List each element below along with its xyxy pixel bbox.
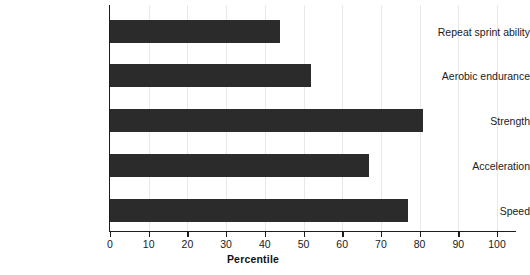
x-axis-tick-label: 70 — [375, 238, 387, 250]
x-axis-tick-label: 100 — [488, 238, 506, 250]
x-axis-title-text: Percentile — [227, 253, 279, 265]
x-axis-tick-label: 80 — [414, 238, 426, 250]
category-label-speed: Speed — [426, 205, 530, 217]
bar-speed — [110, 199, 408, 222]
y-axis-line — [109, 5, 110, 232]
x-axis-tick-label: 60 — [336, 238, 348, 250]
category-label-strength: Strength — [426, 115, 530, 127]
x-axis-tick — [458, 232, 459, 237]
x-axis-tick — [187, 232, 188, 237]
x-axis-tick — [304, 232, 305, 237]
x-axis-tick-label: 40 — [259, 238, 271, 250]
x-axis-tick-label: 10 — [143, 238, 155, 250]
x-axis-title: Percentile — [0, 253, 530, 265]
bar-repeat-sprint-ability — [110, 20, 280, 43]
x-axis-tick — [110, 232, 111, 237]
x-axis-tick-label: 50 — [298, 238, 310, 250]
x-axis-tick — [265, 232, 266, 237]
x-axis-tick — [497, 232, 498, 237]
category-label-aerobic-endurance: Aerobic endurance — [426, 70, 530, 82]
bar-chart: 0 10 20 30 40 50 60 70 80 90 100 Repeat … — [0, 0, 530, 275]
category-label-repeat-sprint-ability: Repeat sprint ability — [426, 26, 530, 38]
x-axis-tick — [149, 232, 150, 237]
x-axis-tick — [342, 232, 343, 237]
bar-aerobic-endurance — [110, 64, 311, 87]
x-axis-tick-label: 0 — [107, 238, 113, 250]
x-axis-tick — [420, 232, 421, 237]
category-label-acceleration: Acceleration — [426, 160, 530, 172]
bar-strength — [110, 109, 423, 132]
x-axis-tick-label: 90 — [452, 238, 464, 250]
x-axis-tick — [381, 232, 382, 237]
x-axis-tick-label: 20 — [182, 238, 194, 250]
x-axis-tick — [226, 232, 227, 237]
x-axis-line — [110, 231, 516, 232]
bar-acceleration — [110, 154, 369, 177]
x-axis-tick-label: 30 — [220, 238, 232, 250]
